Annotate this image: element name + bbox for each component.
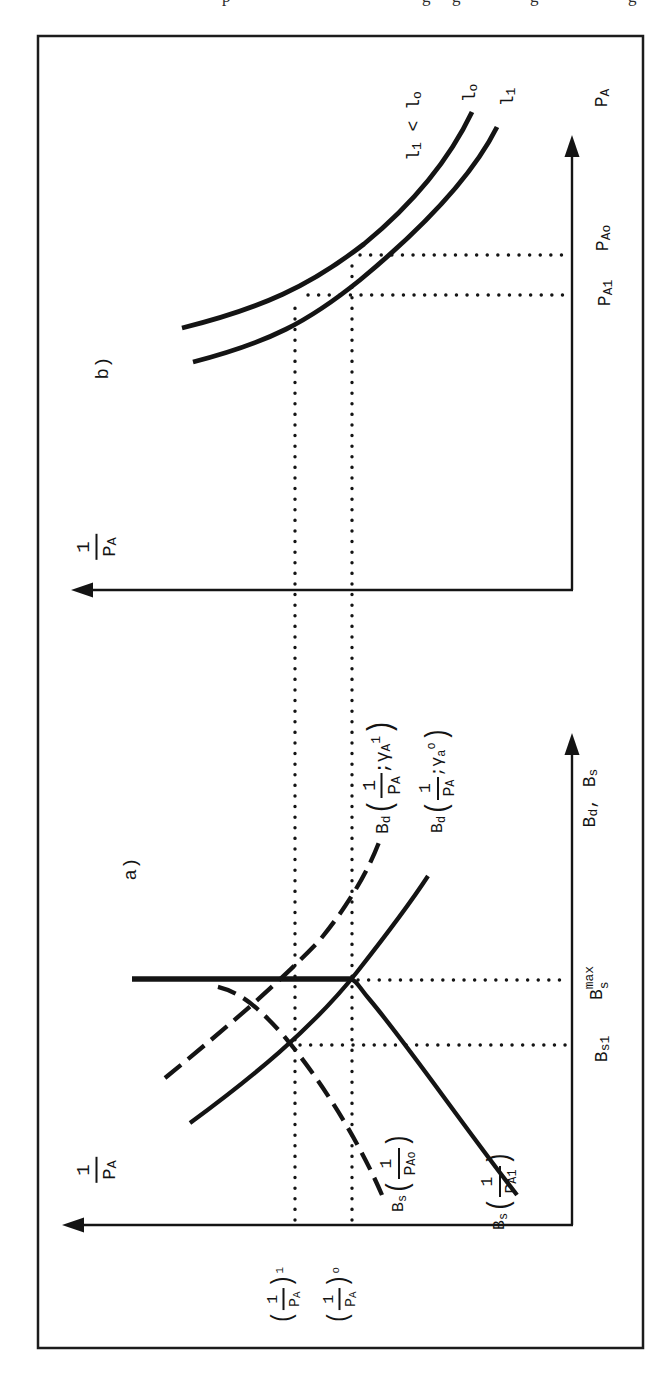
tick-bs1: Bs1 [593,1036,611,1062]
inv-price-fraction: 1 PA [75,534,120,560]
text-fragment: p [222,0,231,7]
panel-a-y-axis-label: 1 PA [75,1157,120,1183]
panel-b-tag: b) [94,357,113,380]
panel-a-tag-text: a) [122,858,141,881]
label-bd-dashed: Bd ( 1 PA ; γA1 ) [361,718,404,834]
label-curve-l1: l1 [499,88,517,107]
text-fragment: g [530,0,539,7]
figure-rotated-container: a) 1 PA Bd, Bs ( 1 PA ) 1 ( 1 PA [0,0,672,1382]
label-bd-solid: Bd ( 1 PA ; γao ) [418,726,458,833]
tick-pa1: PA1 [596,280,614,306]
tick-inv-pa-0: ( 1 PA ) o [322,1267,359,1325]
label-bs-solid: Bs ( 1 PA1 ) [480,1150,520,1230]
panel-b-y-axis-label: 1 PA [75,534,120,560]
tick-bsmax: B max s [583,966,611,1000]
label-bs-dashed: Bs ( 1 PAo ) [379,1132,419,1212]
panel-b-x-axis-label: PA [593,89,611,108]
figure-frame [38,36,643,1348]
label-curve-lo: lo [461,84,479,103]
panel-a-x-axis-label: Bd, Bs [581,769,599,828]
text-fragment: g [628,0,637,7]
inv-price-fraction: 1 PA [75,1157,120,1183]
panel-b-tag-text: b) [94,357,113,380]
scanned-page: a) 1 PA Bd, Bs ( 1 PA ) 1 ( 1 PA [0,0,672,1382]
text-fragment: g [452,0,461,7]
text-fragment: g [422,0,431,7]
panel-a-tag: a) [122,858,141,881]
tick-pao: PAo [594,225,612,251]
annotation-l1-less-lo: l1 < lo [405,91,423,161]
clipped-text-line: p g g g g [0,0,672,8]
tick-inv-pa-1: ( 1 PA ) 1 [266,1267,303,1325]
